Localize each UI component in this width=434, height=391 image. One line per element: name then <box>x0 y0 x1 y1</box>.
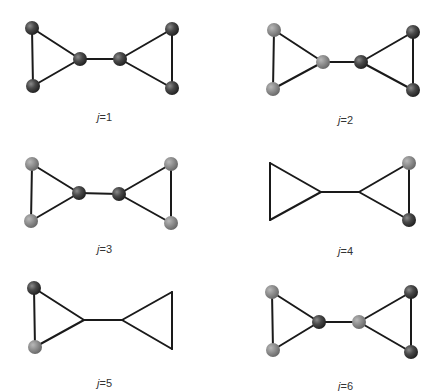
figure-svg: j=1j=2j=3j=4j=5j=6 <box>0 0 434 391</box>
bowtie-graph-figure: j=1j=2j=3j=4j=5j=6 <box>0 0 434 391</box>
dark-vertex-icon <box>312 315 326 329</box>
graph-edge <box>120 59 172 88</box>
dark-vertex-icon <box>25 21 39 35</box>
graph-edge <box>361 32 413 62</box>
graph-edge <box>119 194 171 223</box>
panel-label: j=1 <box>95 111 112 123</box>
panel-j6: j=6 <box>265 285 418 391</box>
dark-vertex-icon <box>165 22 179 36</box>
dark-vertex-icon <box>113 52 127 66</box>
light-vertex-icon <box>402 156 416 170</box>
graph-edge <box>33 59 80 86</box>
light-vertex-icon <box>265 285 279 299</box>
dark-vertex-icon <box>165 81 179 95</box>
dark-vertex-icon <box>354 55 368 69</box>
graph-edge <box>359 292 411 322</box>
graph-edge <box>359 192 409 220</box>
graph-edge <box>361 62 413 90</box>
panel-j3: j=3 <box>24 157 178 255</box>
graph-edge <box>270 163 321 192</box>
panel-label: j=2 <box>336 114 353 126</box>
graph-edge <box>31 193 79 221</box>
light-vertex-icon <box>316 55 330 69</box>
light-vertex-icon <box>25 157 39 171</box>
panel-label: j=4 <box>336 245 353 257</box>
light-vertex-icon <box>28 340 42 354</box>
light-vertex-icon <box>164 216 178 230</box>
graph-edge <box>31 164 32 221</box>
dark-vertex-icon <box>406 25 420 39</box>
graph-edge <box>359 322 411 352</box>
graph-edge <box>273 30 274 89</box>
dark-vertex-icon <box>27 281 41 295</box>
graph-edge <box>272 292 319 322</box>
graph-edge <box>122 292 172 320</box>
dark-vertex-icon <box>404 345 418 359</box>
graph-edge <box>272 292 273 350</box>
panel-j2: j=2 <box>266 23 420 126</box>
light-vertex-icon <box>266 82 280 96</box>
graph-edge <box>119 164 171 194</box>
panel-j4: j=4 <box>270 156 416 257</box>
dark-vertex-icon <box>404 285 418 299</box>
panel-j5: j=5 <box>27 281 172 389</box>
graph-edge <box>32 28 80 59</box>
dark-vertex-icon <box>72 186 86 200</box>
graph-edge <box>120 29 172 59</box>
graph-edge <box>32 28 33 86</box>
graph-edge <box>34 288 84 320</box>
dark-vertex-icon <box>73 52 87 66</box>
dark-vertex-icon <box>112 187 126 201</box>
light-vertex-icon <box>24 214 38 228</box>
graph-edge <box>273 322 319 350</box>
light-vertex-icon <box>164 157 178 171</box>
panel-label: j=3 <box>95 243 112 255</box>
graph-edge <box>122 320 172 349</box>
panel-label: j=6 <box>336 380 353 391</box>
graph-edge <box>359 163 409 192</box>
graph-edge <box>32 164 79 193</box>
graph-edge <box>273 62 323 89</box>
panel-j1: j=1 <box>25 21 179 123</box>
light-vertex-icon <box>352 315 366 329</box>
dark-vertex-icon <box>406 83 420 97</box>
light-vertex-icon <box>267 23 281 37</box>
graph-edge <box>274 30 323 62</box>
graph-edge <box>35 320 84 347</box>
panel-label: j=5 <box>95 377 112 389</box>
dark-vertex-icon <box>26 79 40 93</box>
light-vertex-icon <box>266 343 280 357</box>
dark-vertex-icon <box>402 213 416 227</box>
graph-edge <box>34 288 35 347</box>
graph-edge <box>270 192 321 220</box>
